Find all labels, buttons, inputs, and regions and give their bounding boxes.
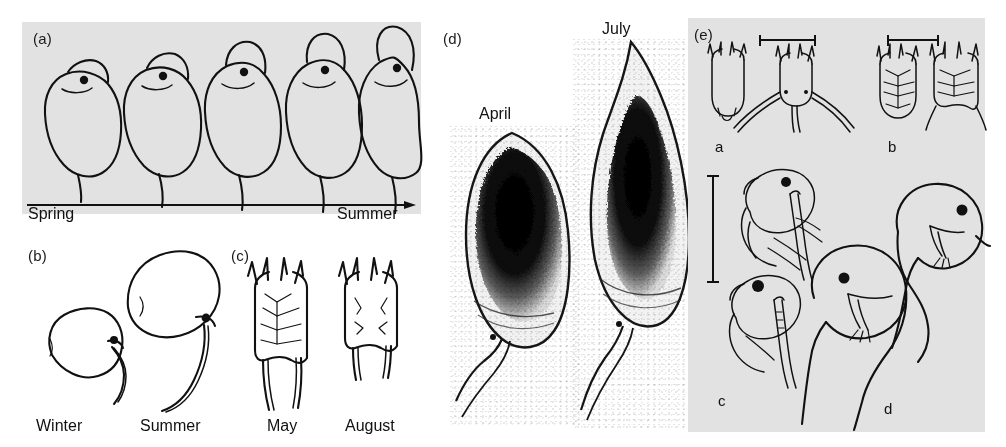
daphnia-specimen-4: [286, 34, 362, 212]
panel-e-sub-a: [700, 34, 860, 144]
panel-e-sub-c-label: c: [718, 392, 726, 409]
panel-c-caption-august: August: [345, 417, 395, 435]
panel-a-specimens: [22, 22, 421, 214]
panel-e-sub-a-label: a: [715, 138, 723, 155]
panel-e-sub-d: [800, 180, 990, 430]
keratella-e-b-rounded: [877, 44, 918, 118]
panel-e-sub-d-label: d: [884, 400, 892, 417]
scalebar-vertical-c: [702, 172, 724, 287]
panel-d-photomicrograph-july: [573, 38, 703, 428]
panel-d-caption-april: April: [479, 105, 511, 123]
panel-a-caption-summer: Summer: [337, 205, 397, 223]
keratella-e-a-spined: [734, 44, 854, 132]
panel-c-specimens: [235, 250, 420, 415]
daphnia-specimen-3: [205, 42, 281, 210]
daphnia-e-d-upper: [892, 184, 990, 362]
scalebar-horizontal-a: [760, 35, 815, 46]
panel-d-photomicrograph-april: [450, 125, 580, 425]
panel-d-caption-july: July: [602, 20, 630, 38]
figure-canvas: (a): [0, 0, 1006, 447]
daphnia-specimen-1: [45, 60, 121, 202]
panel-e-sub-b-label: b: [888, 138, 896, 155]
keratella-e-b-spined: [926, 42, 986, 130]
panel-e-sub-b: [866, 34, 991, 144]
panel-b-caption-summer: Summer: [140, 417, 200, 435]
scalebar-horizontal-b: [888, 35, 938, 46]
panel-a-caption-spring: Spring: [28, 205, 74, 223]
bosmina-summer: [128, 251, 220, 412]
daphnia-specimen-2: [124, 53, 201, 207]
keratella-e-a-spineless: [708, 42, 746, 121]
panel-d-label: (d): [443, 30, 462, 47]
panel-b-specimens: [20, 235, 240, 410]
keratella-august: [339, 258, 397, 380]
daphnia-specimen-5: [359, 27, 421, 213]
bosmina-winter: [49, 308, 126, 404]
panel-c-caption-may: May: [267, 417, 297, 435]
panel-b-caption-winter: Winter: [36, 417, 82, 435]
keratella-may: [248, 258, 307, 410]
bosmina-e-c-lower: [730, 276, 801, 388]
